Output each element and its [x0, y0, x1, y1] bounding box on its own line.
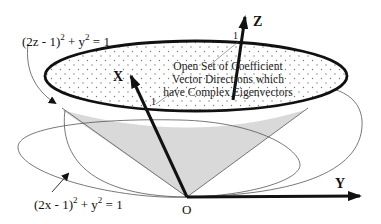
z-axis-label: Z	[253, 15, 262, 29]
region-line-3: have Complex Eigenvectors	[148, 86, 308, 99]
x-axis-label: X	[113, 70, 123, 84]
pointer-bottom-eq	[52, 174, 68, 192]
eq-base: (2x - 1)	[34, 197, 73, 212]
z-tick-label: 1	[233, 31, 238, 41]
region-description: Open Set of Coefficient Vector Direction…	[148, 60, 308, 99]
eq-base: (2z - 1)	[22, 34, 60, 49]
eq-rhs: = 1	[90, 34, 110, 49]
eq-mid: + y	[65, 34, 85, 49]
y-axis-label: Y	[335, 177, 345, 191]
eq-rhs: = 1	[102, 197, 122, 212]
cone-surface	[62, 110, 305, 197]
y-axis	[187, 196, 360, 197]
equation-x-label: (2x - 1)2 + y2 = 1	[34, 196, 123, 211]
origin-label: O	[182, 203, 191, 216]
region-line-1: Open Set of Coefficient	[148, 60, 308, 73]
equation-z-label: (2z - 1)2 + y2 = 1	[22, 33, 110, 48]
region-line-2: Vector Directions which	[148, 73, 308, 86]
eq-mid: + y	[78, 197, 98, 212]
